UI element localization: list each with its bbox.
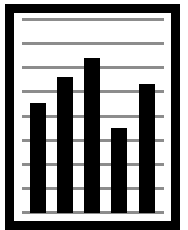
bar-4 — [111, 128, 127, 213]
gridline — [22, 42, 164, 45]
bar-2 — [57, 77, 73, 213]
gridline — [22, 18, 164, 21]
bar-chart — [0, 0, 188, 230]
bar-3 — [84, 58, 100, 213]
bar-5 — [139, 84, 155, 213]
bar-1 — [30, 103, 46, 213]
